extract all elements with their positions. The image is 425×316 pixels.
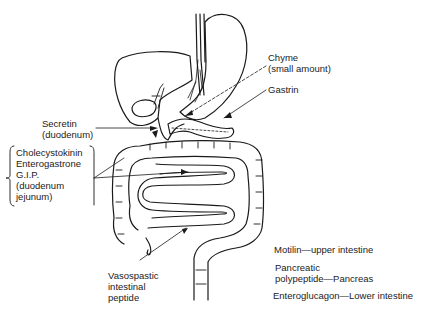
label-vip-line2: intestinal (108, 281, 159, 292)
label-chyme: Chyme (small amount) (268, 52, 331, 74)
label-duodenum: (duodenum (16, 180, 83, 191)
label-cck-group: Cholecystokinin Enterogastrone G.I.P. (d… (16, 147, 83, 202)
label-secretin-line2: (duodenum) (42, 129, 93, 140)
label-pancreatic-polypeptide: Pancreatic polypeptide—Pancreas (275, 262, 373, 284)
cck-bracket-right (90, 146, 94, 205)
small-intestine-inner (138, 172, 227, 218)
label-gip: G.I.P. (16, 169, 83, 180)
cck-leader-a (94, 158, 124, 178)
gallbladder (132, 100, 156, 117)
label-vip: Vasospastic intestinal peptide (108, 270, 159, 303)
label-secretin: Secretin (duodenum) (42, 118, 93, 140)
appendix (146, 238, 151, 255)
liver (115, 52, 192, 126)
label-jejunum: jejunum) (16, 191, 83, 202)
cck-bracket-left (6, 146, 14, 206)
label-motilin: Motilin—upper intestine (274, 244, 373, 255)
label-secretin-line1: Secretin (42, 118, 93, 129)
label-enteroglucagon: Enteroglucagon—Lower intestine (273, 290, 413, 301)
label-cck: Cholecystokinin (16, 147, 83, 158)
vip-leader (140, 228, 186, 260)
label-vip-line3: peptide (108, 292, 159, 303)
stomach (180, 14, 247, 119)
colon-haustra (116, 142, 262, 284)
label-vip-line1: Vasospastic (108, 270, 159, 281)
label-chyme-line2: (small amount) (268, 63, 331, 74)
label-chyme-line1: Chyme (268, 52, 331, 63)
duodenum (158, 118, 184, 140)
pancreas (168, 119, 234, 138)
bile-duct (152, 84, 164, 108)
label-gastrin: Gastrin (268, 84, 299, 95)
label-enterogastrone: Enterogastrone (16, 158, 83, 169)
label-pp-line1: Pancreatic (275, 262, 373, 273)
label-pp-line2: polypeptide—Pancreas (275, 273, 373, 284)
chyme-leader (185, 66, 266, 116)
